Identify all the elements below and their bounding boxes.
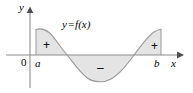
region-sign-positive-right: + [151,40,158,52]
region-sign-positive-left: + [43,39,50,51]
curve-equation-equals: = [67,18,75,30]
region-sign-negative-middle: – [97,62,104,74]
x-axis-label: x [171,58,176,69]
y-axis-arrowhead [27,7,34,14]
figure-canvas [0,0,193,93]
y-axis-label: y [19,2,24,13]
curve-equation-rhs: f(x) [75,18,90,30]
origin-label: 0 [21,57,27,68]
signed-area-figure: y x 0 a b y=f(x) + – + [0,0,193,93]
x-axis-arrowhead [177,52,184,59]
upper-limit-label-b: b [154,58,160,69]
shaded-area-positive-left [36,29,67,55]
lower-limit-label-a: a [35,58,41,69]
curve-equation-label: y=f(x) [62,19,90,30]
